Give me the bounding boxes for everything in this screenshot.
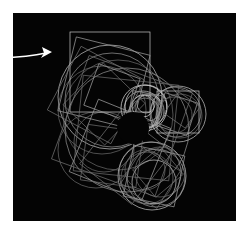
screenshot-root xyxy=(0,0,246,228)
generative-art-figure xyxy=(0,0,246,228)
center-void xyxy=(117,112,149,144)
center-void-disc xyxy=(117,112,149,144)
